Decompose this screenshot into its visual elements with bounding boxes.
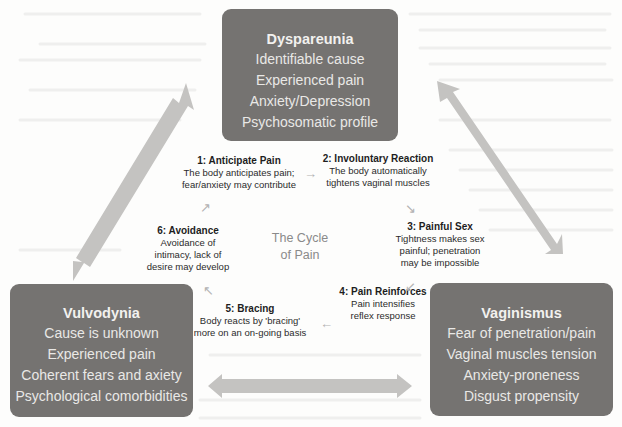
cycle-step-painful-sex: 3: Painful Sex Tightness makes sex painf… (385, 221, 495, 269)
vulvodynia-item: Psychological comorbidities (10, 386, 193, 407)
step-text: desire may develop (145, 261, 231, 273)
step-title: 5: Bracing (185, 303, 315, 315)
center-label-line: The Cycle (250, 230, 350, 247)
cycle-center-label: The Cycle of Pain (250, 230, 350, 264)
dyspareunia-item: Anxiety/Depression (222, 91, 398, 112)
vulvodynia-box: Vulvodynia Cause is unknown Experienced … (10, 284, 193, 417)
vaginismus-title: Vaginismus (430, 303, 613, 323)
arrow-right-icon: → (304, 167, 317, 180)
vulvodynia-item: Cause is unknown (10, 323, 193, 344)
vulvodynia-item: Experienced pain (10, 344, 193, 365)
step-text: may be impossible (385, 257, 495, 269)
arrow-left-icon: ← (320, 317, 333, 330)
cycle-step-avoidance: 6: Avoidance Avoidance of intimacy, lack… (145, 225, 231, 273)
dyspareunia-item: Psychosomatic profile (222, 112, 398, 133)
step-title: 6: Avoidance (145, 225, 231, 237)
cycle-step-anticipate-pain: 1: Anticipate Pain The body anticipates … (180, 155, 298, 191)
vaginismus-item: Anxiety-proneness (430, 365, 613, 386)
step-text: fear/anxiety may contribute (180, 179, 298, 191)
step-text: more on an on-going basis (185, 327, 315, 339)
dyspareunia-item: Experienced pain (222, 70, 398, 91)
diagram-page: Dyspareunia Identifiable cause Experienc… (0, 0, 622, 427)
step-text: reflex response (338, 310, 428, 322)
cycle-step-bracing: 5: Bracing Body reacts by 'bracing' more… (185, 303, 315, 339)
step-text: tightens vaginal muscles (318, 177, 438, 189)
dyspareunia-item: Identifiable cause (222, 49, 398, 70)
dyspareunia-box: Dyspareunia Identifiable cause Experienc… (222, 9, 398, 141)
vaginismus-box: Vaginismus Fear of penetration/pain Vagi… (430, 283, 613, 416)
vaginismus-item: Vaginal muscles tension (430, 344, 613, 365)
step-text: Pain intensifies (338, 298, 428, 310)
step-text: Body reacts by 'bracing' (185, 315, 315, 327)
vaginismus-item: Fear of penetration/pain (430, 323, 613, 344)
double-arrow-vulvodynia-vaginismus-icon (208, 374, 412, 398)
step-text: Tightness makes sex (385, 233, 495, 245)
step-title: 2: Involuntary Reaction (318, 153, 438, 165)
step-text: painful; penetration (385, 245, 495, 257)
step-text: The body automatically (318, 165, 438, 177)
step-title: 3: Painful Sex (385, 221, 495, 233)
step-text: Avoidance of (145, 237, 231, 249)
center-label-line: of Pain (250, 247, 350, 264)
arrow-up-right-icon: ↗ (200, 201, 211, 214)
arrow-down-right-icon: ↘ (405, 202, 416, 215)
step-text: intimacy, lack of (145, 249, 231, 261)
dyspareunia-title: Dyspareunia (222, 29, 398, 49)
vulvodynia-title: Vulvodynia (10, 303, 193, 323)
vulvodynia-item: Coherent fears and axiety (10, 365, 193, 386)
vaginismus-item: Disgust propensity (430, 386, 613, 407)
step-title: 1: Anticipate Pain (180, 155, 298, 167)
arrow-up-left-icon: ↖ (203, 284, 214, 297)
step-text: The body anticipates pain; (180, 167, 298, 179)
arrow-down-left-icon: ↙ (405, 280, 416, 293)
cycle-step-involuntary-reaction: 2: Involuntary Reaction The body automat… (318, 153, 438, 189)
